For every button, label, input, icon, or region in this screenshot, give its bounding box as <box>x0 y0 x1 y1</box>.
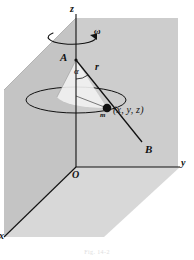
angle-label-alpha: α <box>74 67 79 76</box>
axis-label-y: y <box>181 158 185 168</box>
coordinates-label: (x, y, z) <box>113 105 144 115</box>
radius-label-r: r <box>95 62 99 72</box>
axis-label-x: x <box>0 231 4 241</box>
axis-label-z: z <box>70 4 74 14</box>
point-label-B: B <box>145 144 152 155</box>
figure-caption: Fig. 14-2 <box>0 249 194 255</box>
figure-container: z ω A α r m (x, y, z) B O y x Fig. 14-2 <box>0 0 194 260</box>
point-label-A: A <box>60 52 67 63</box>
angular-velocity-label: ω <box>94 27 101 36</box>
mass-label-m: m <box>100 112 105 119</box>
origin-label: O <box>72 170 79 180</box>
point-A-marker <box>74 58 77 61</box>
diagram-canvas <box>0 0 194 260</box>
